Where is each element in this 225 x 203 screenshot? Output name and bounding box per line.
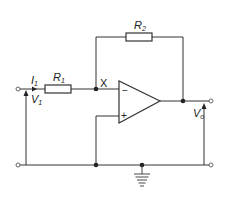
output-terminal: [209, 99, 213, 103]
output-ground-terminal: [209, 163, 213, 167]
ground-icon: [134, 165, 150, 186]
input-ground-terminal: [16, 163, 20, 167]
resistor-r1: [45, 85, 71, 93]
label-r1: R1: [53, 71, 65, 84]
circuit-diagram: I1 R1 R2 V1 Vo X − +: [0, 0, 225, 203]
node-x: [94, 87, 99, 92]
resistor-r2: [126, 33, 152, 41]
label-v1: V1: [31, 93, 42, 106]
minus-sign: −: [122, 85, 128, 96]
vo-arrowhead-icon: [202, 103, 207, 109]
label-x: X: [100, 77, 108, 89]
input-terminal: [16, 87, 20, 91]
current-arrow-icon: [32, 87, 37, 92]
v1-arrowhead-icon: [24, 90, 29, 96]
plus-sign: +: [121, 110, 127, 121]
label-i1: I1: [31, 74, 38, 87]
node-output: [181, 99, 186, 104]
node-ground-left: [94, 163, 99, 168]
noninverting-wire: [96, 116, 119, 165]
label-r2: R2: [134, 19, 146, 32]
circuit-svg: I1 R1 R2 V1 Vo X − +: [0, 0, 225, 203]
